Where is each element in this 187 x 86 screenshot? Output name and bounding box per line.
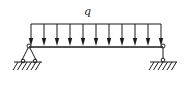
- hatch-line: [31, 62, 36, 70]
- arrowhead-icon: [94, 38, 98, 46]
- arrowhead-icon: [55, 38, 59, 46]
- hatch-line: [167, 62, 172, 70]
- hatch-line: [18, 62, 23, 70]
- hatch-line: [158, 62, 163, 70]
- ground-hatch-right: [149, 62, 177, 70]
- distributed-load: [29, 24, 163, 46]
- hatch-line: [163, 62, 168, 70]
- arrowhead-icon: [120, 38, 124, 46]
- arrowhead-icon: [68, 38, 72, 46]
- arrowhead-icon: [107, 38, 111, 46]
- hatch-line: [36, 62, 41, 70]
- hatch-line: [27, 62, 32, 70]
- ground-hatch-left: [13, 62, 41, 70]
- load-label: q: [84, 5, 91, 18]
- beam-diagram: q: [0, 0, 187, 86]
- arrowhead-icon: [133, 38, 137, 46]
- hatch-line: [149, 62, 154, 70]
- arrowhead-icon: [81, 38, 85, 46]
- load-arrows: [29, 24, 163, 46]
- pinned-support-icon: [13, 44, 42, 70]
- arrowhead-icon: [42, 38, 46, 46]
- hatch-line: [172, 62, 177, 70]
- arrowhead-icon: [146, 38, 150, 46]
- hatch-line: [154, 62, 159, 70]
- hatch-line: [13, 62, 18, 70]
- roller-support-icon: [149, 44, 177, 70]
